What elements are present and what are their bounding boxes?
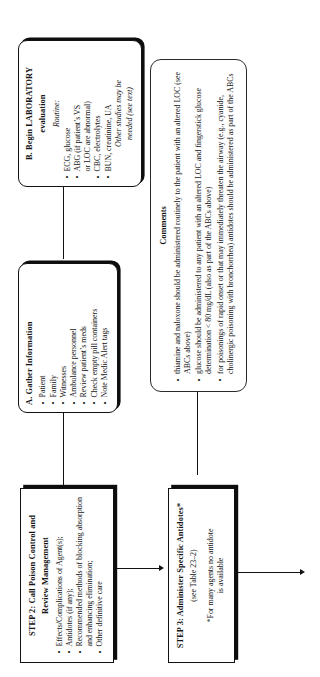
list-item-continuation: or LOC are abnormal)	[83, 48, 93, 179]
laboratory-subhead: Routine:	[52, 48, 61, 179]
step3-reference: (see Table 23–2)	[189, 497, 198, 654]
bullet-dot-icon: •	[64, 650, 75, 653]
list-item: •Patient	[38, 271, 48, 405]
list-item: •Note Medic Alert tags	[100, 271, 110, 405]
laboratory-title-line1: B. Begin LABORATORY	[25, 48, 35, 179]
laboratory-note-line1: Other studies may be	[114, 48, 123, 179]
arrowhead-step2-to-step3	[159, 565, 164, 571]
connector-lab-to-step2	[63, 413, 64, 485]
bullet-dot-icon: •	[194, 378, 205, 381]
bullet-dot-icon: •	[93, 175, 104, 178]
bullet-dot-icon: •	[95, 650, 106, 653]
step3-footnote-line1: *For many agents no antidote	[206, 497, 216, 654]
node-laboratory-evaluation: B. Begin LABORATORY evaluation Routine: …	[18, 40, 142, 187]
step2-title-line2: Review Management	[41, 497, 51, 654]
list-item: •Ambulance personnel	[69, 271, 79, 405]
bullet-dot-icon: •	[69, 401, 80, 404]
node-step-2: STEP 2: Call Poison Control and Review M…	[20, 488, 114, 663]
list-item: •Review patient’s meds	[79, 271, 89, 405]
connector-comments-to-step3	[197, 392, 198, 475]
bullet-dot-icon: •	[54, 650, 65, 653]
list-item: •for poisonings of rapid onset or that m…	[216, 69, 236, 382]
bullet-dot-icon: •	[62, 175, 73, 178]
list-item: •ECG, glucose	[63, 48, 73, 179]
list-item: •thiamine and naloxone should be adminis…	[173, 69, 193, 382]
list-item: •Check empty pill containers	[90, 271, 100, 405]
step3-title: STEP 3: Administer Specific Antidotes*	[176, 497, 186, 654]
bullet-dot-icon: •	[100, 401, 111, 404]
comments-bullet-list: •thiamine and naloxone should be adminis…	[173, 69, 236, 382]
list-item: •glucose should be administered to any p…	[194, 69, 214, 382]
arrowhead-step3-outflow	[300, 569, 305, 575]
bullet-dot-icon: •	[38, 401, 49, 404]
bullet-dot-icon: •	[48, 401, 59, 404]
step2-title-line1: STEP 2: Call Poison Control and	[28, 497, 38, 654]
list-item: •BUN, creatinine, UA	[104, 48, 114, 179]
bullet-dot-icon: •	[75, 650, 86, 653]
list-item: •Antidotes (if any);	[65, 497, 75, 654]
comments-title: Comments	[159, 69, 168, 382]
step2-bullet-list: •Effects/Complications of Agent(s); •Ant…	[55, 497, 105, 654]
node-gather-information: A. Gather Information •Patient •Family •…	[18, 263, 118, 413]
node-step-3: STEP 3: Administer Specific Antidotes* (…	[168, 488, 235, 663]
bullet-dot-icon: •	[72, 175, 83, 178]
list-item: •ABG (if patient’s VS	[73, 48, 83, 179]
list-item: •Recommended methods of blocking absorpt…	[75, 497, 95, 654]
connector-gather-to-lab	[63, 185, 64, 259]
list-item: •Witnesses	[59, 271, 69, 405]
list-item: •Other definitive care	[95, 497, 105, 654]
step3-footnote-line2: is available	[216, 497, 225, 654]
flowchart-canvas: B. Begin LABORATORY evaluation Routine: …	[0, 0, 320, 677]
node-comments: Comments •thiamine and naloxone should b…	[150, 59, 247, 392]
laboratory-bullet-list: •ECG, glucose •ABG (if patient’s VS or L…	[63, 48, 114, 179]
laboratory-title-line2: evaluation	[38, 48, 48, 179]
list-item: •Family	[49, 271, 59, 405]
connector-step2-to-step3	[116, 568, 160, 569]
list-item: •CBC, electrolytes	[93, 48, 103, 179]
gather-bullet-list: •Patient •Family •Witnesses •Ambulance p…	[38, 271, 110, 405]
connector-step3-outflow	[229, 572, 301, 573]
bullet-dot-icon: •	[173, 378, 184, 381]
bullet-dot-icon: •	[89, 401, 100, 404]
bullet-dot-icon: •	[103, 175, 114, 178]
gather-title: A. Gather Information	[25, 271, 35, 405]
laboratory-note-line2: needed (see text)	[125, 48, 134, 179]
bullet-dot-icon: •	[58, 401, 69, 404]
bullet-dot-icon: •	[215, 378, 226, 381]
bullet-dot-icon: •	[79, 401, 90, 404]
list-item: •Effects/Complications of Agent(s);	[55, 497, 65, 654]
